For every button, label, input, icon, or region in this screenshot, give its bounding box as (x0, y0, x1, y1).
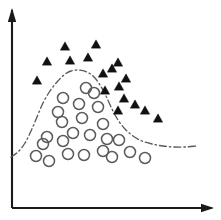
marker-triangle (153, 114, 162, 122)
marker-triangle (65, 56, 74, 64)
marker-circle (140, 153, 151, 164)
marker-circle (114, 135, 125, 146)
marker-triangle (130, 100, 139, 108)
marker-triangle (119, 94, 128, 102)
marker-circle (107, 152, 118, 163)
marker-circle (89, 88, 100, 99)
marker-triangle (113, 58, 122, 66)
y-axis-arrowhead (8, 8, 16, 22)
marker-triangle (42, 57, 51, 65)
marker-triangle (91, 40, 100, 48)
marker-triangle (83, 53, 92, 61)
marker-triangle (113, 106, 122, 114)
marker-circle (68, 128, 79, 139)
marker-circle (85, 130, 96, 141)
marker-circle (77, 113, 88, 124)
marker-circle (44, 156, 55, 167)
x-axis-arrowhead (201, 204, 214, 212)
marker-circle (58, 93, 69, 104)
marker-circle (81, 83, 92, 94)
marker-circle (53, 107, 64, 118)
marker-triangle (114, 82, 123, 90)
marker-circle (93, 102, 104, 113)
marker-triangle (121, 74, 130, 82)
marker-triangle (32, 76, 41, 84)
marker-circle (58, 136, 69, 147)
marker-circle (74, 99, 85, 110)
marker-triangle (98, 69, 107, 77)
plot-canvas (0, 0, 221, 220)
marker-circle (31, 151, 42, 162)
marker-circle (63, 149, 74, 160)
scatter-plot-figure (0, 0, 221, 220)
marker-triangle (60, 42, 69, 50)
class-b-markers-group (31, 83, 151, 167)
marker-circle (98, 119, 109, 130)
marker-triangle (140, 106, 149, 114)
marker-circle (79, 150, 90, 161)
marker-circle (125, 147, 136, 158)
axes-group (8, 8, 214, 212)
marker-circle (102, 134, 113, 145)
